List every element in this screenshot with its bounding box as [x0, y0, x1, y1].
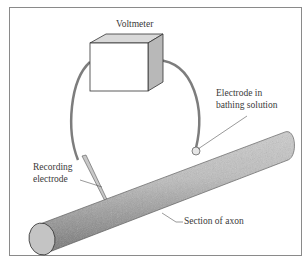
recording-electrode-label-line1: Recording [33, 162, 73, 173]
diagram-canvas [0, 0, 307, 268]
leader-bath-electrode [198, 116, 247, 149]
voltmeter-icon [90, 34, 163, 91]
left-wire [71, 62, 90, 160]
recording-electrode-label-line2: electrode [33, 174, 68, 185]
leader-axon [162, 213, 183, 222]
bath-electrode-label-line1: Electrode in [216, 88, 262, 99]
bath-electrode-label-line2: bathing solution [216, 100, 278, 111]
voltmeter-label: Voltmeter [116, 19, 153, 30]
axon-icon [27, 132, 295, 257]
axon-label: Section of axon [184, 216, 244, 227]
